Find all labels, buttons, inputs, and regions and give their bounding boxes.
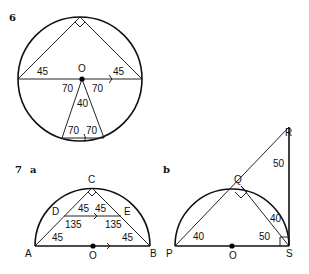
- angle-apex: 40: [77, 98, 89, 109]
- figure-6: 6 O 45 45 70 70 40 70 70: [9, 12, 142, 142]
- label-C: C: [88, 174, 95, 185]
- label-B: B: [150, 248, 157, 259]
- figure-sublabel-b: b: [163, 164, 170, 175]
- label-R: R: [285, 127, 292, 138]
- angle-S-lower: 50: [259, 231, 271, 242]
- angle-D-bottom: 135: [65, 219, 82, 230]
- angle-B: 45: [122, 232, 134, 243]
- chord-right: [80, 17, 142, 79]
- angle-left-base: 45: [37, 66, 49, 77]
- angle-right-base: 45: [113, 66, 125, 77]
- center-point: [229, 243, 234, 248]
- label-O: O: [89, 250, 97, 261]
- center-point: [90, 243, 95, 248]
- angle-bottom-left: 70: [68, 125, 80, 136]
- figure-number-6: 6: [9, 12, 16, 23]
- label-O: O: [78, 63, 86, 74]
- angle-R: 50: [273, 158, 285, 169]
- label-D: D: [52, 206, 59, 217]
- angle-A: 45: [52, 232, 64, 243]
- figure-sublabel-a: a: [30, 164, 37, 175]
- figure-7b: b Q R P O S 50 40 40 50: [163, 127, 293, 261]
- angle-E-bottom: 135: [105, 219, 122, 230]
- geometry-diagrams: 6 O 45 45 70 70 40 70 70 7 a: [0, 0, 309, 274]
- right-angle-marker: [75, 22, 85, 27]
- chord-left: [18, 17, 80, 79]
- angle-D-top: 45: [78, 203, 90, 214]
- label-P: P: [166, 248, 173, 259]
- angle-center-left: 70: [62, 83, 74, 94]
- center-point: [79, 76, 84, 81]
- label-S: S: [286, 248, 293, 259]
- figure-7a: 7 a C D E A B O 45 45 135 135 45 45: [15, 164, 157, 261]
- line-PR: [175, 127, 289, 246]
- right-angle-marker: [88, 192, 96, 196]
- angle-E-top: 45: [95, 203, 107, 214]
- angle-P: 40: [193, 231, 205, 242]
- label-O: O: [229, 250, 237, 261]
- label-Q: Q: [234, 174, 242, 185]
- label-E: E: [124, 206, 131, 217]
- figure-number-7: 7: [15, 164, 22, 175]
- label-A: A: [25, 248, 32, 259]
- angle-center-right: 70: [92, 83, 104, 94]
- angle-QS-upper: 40: [270, 213, 282, 224]
- angle-bottom-right: 70: [86, 125, 98, 136]
